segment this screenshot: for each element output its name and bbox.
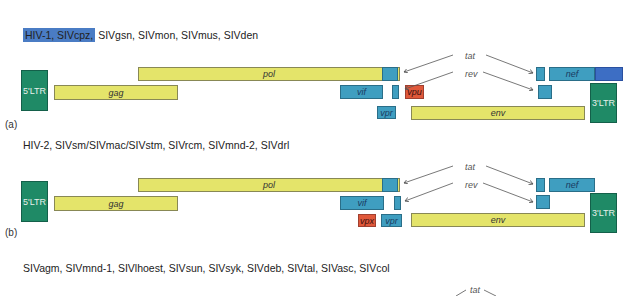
splice-arrows [0, 0, 632, 296]
